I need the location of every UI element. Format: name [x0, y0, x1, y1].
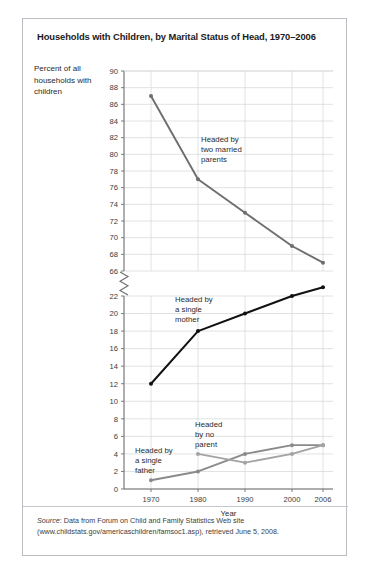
svg-text:68: 68 [110, 250, 118, 259]
data-point [196, 452, 200, 456]
svg-text:66: 66 [110, 267, 118, 276]
svg-text:1970: 1970 [143, 495, 160, 504]
series-annotation: Headed bya singlefather [135, 446, 173, 475]
x-axis-ticks: 19701980199020002006 [143, 489, 332, 504]
data-point [290, 244, 294, 248]
svg-text:74: 74 [110, 200, 118, 209]
svg-text:1980: 1980 [190, 495, 207, 504]
data-point [149, 382, 153, 386]
svg-text:2000: 2000 [284, 495, 301, 504]
series-annotation: Headed bytwo marriedparents [201, 135, 242, 164]
gridlines [124, 71, 333, 489]
data-point [290, 294, 294, 298]
svg-text:80: 80 [110, 150, 118, 159]
svg-text:76: 76 [110, 183, 118, 192]
svg-text:72: 72 [110, 217, 118, 226]
data-point [196, 177, 200, 181]
data-point [321, 285, 325, 289]
series-line [151, 445, 323, 480]
svg-text:84: 84 [110, 117, 118, 126]
data-point [196, 469, 200, 473]
svg-text:2: 2 [114, 467, 118, 476]
data-point [196, 329, 200, 333]
data-point [243, 461, 247, 465]
svg-text:4: 4 [114, 450, 118, 459]
source-label: Source [37, 516, 60, 525]
plot-area: 6668707274767880828486889002468101214161… [23, 19, 348, 557]
svg-text:90: 90 [110, 67, 118, 76]
data-point [290, 452, 294, 456]
svg-text:6: 6 [114, 432, 118, 441]
data-point [321, 443, 325, 447]
series-annotation: Headed bya singlemother [175, 295, 213, 324]
series-annotation: Headedby noparent [195, 420, 222, 449]
data-point [149, 478, 153, 482]
axis-break-icon [120, 272, 128, 295]
svg-text:86: 86 [110, 100, 118, 109]
data-point [243, 452, 247, 456]
svg-text:12: 12 [110, 380, 118, 389]
svg-text:22: 22 [110, 292, 118, 301]
source-note: Source: Data from Forum on Child and Fam… [37, 515, 333, 537]
data-point [149, 94, 153, 98]
source-divider [23, 506, 348, 507]
svg-text:18: 18 [110, 327, 118, 336]
svg-text:82: 82 [110, 133, 118, 142]
svg-text:8: 8 [114, 415, 118, 424]
svg-text:10: 10 [110, 397, 118, 406]
data-point [243, 312, 247, 316]
line-chart-svg: 6668707274767880828486889002468101214161… [23, 19, 348, 557]
svg-text:1990: 1990 [237, 495, 254, 504]
data-point [321, 261, 325, 265]
svg-text:0: 0 [114, 485, 118, 494]
source-text: : Data from Forum on Child and Family St… [37, 516, 279, 536]
svg-text:14: 14 [110, 362, 118, 371]
svg-text:88: 88 [110, 83, 118, 92]
svg-text:16: 16 [110, 344, 118, 353]
data-point [243, 211, 247, 215]
svg-text:2006: 2006 [315, 495, 332, 504]
svg-text:70: 70 [110, 233, 118, 242]
svg-text:78: 78 [110, 167, 118, 176]
svg-text:20: 20 [110, 309, 118, 318]
chart-figure: Households with Children, by Marital Sta… [22, 18, 347, 556]
data-point [290, 443, 294, 447]
axis-lines [124, 71, 333, 489]
